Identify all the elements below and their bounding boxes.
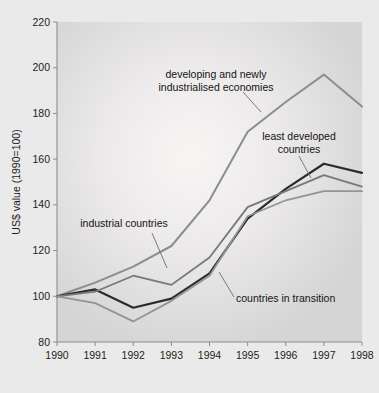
x-tick-1994: 1994 <box>198 349 222 361</box>
y-tick-220: 220 <box>32 16 50 28</box>
y-axis-title: US$ value (1990=100) <box>10 129 22 234</box>
y-tick-80: 80 <box>38 336 50 348</box>
x-tick-1991: 1991 <box>83 349 107 361</box>
y-tick-120: 120 <box>32 244 50 256</box>
x-tick-1990: 1990 <box>45 349 69 361</box>
y-tick-140: 140 <box>32 198 50 210</box>
y-tick-160: 160 <box>32 153 50 165</box>
y-tick-180: 180 <box>32 107 50 119</box>
x-tick-1993: 1993 <box>160 349 184 361</box>
x-tick-1995: 1995 <box>236 349 260 361</box>
x-tick-1992: 1992 <box>122 349 146 361</box>
chart-figure: 22020018016014012010080 1990199119921993… <box>0 0 379 393</box>
y-tick-200: 200 <box>32 61 50 73</box>
x-tick-1997: 1997 <box>312 349 336 361</box>
line-chart-svg: 22020018016014012010080 1990199119921993… <box>0 0 379 393</box>
annotation-industrial-countries: industrial countries <box>80 217 168 229</box>
annotation-developing-and-newly-industrialised-economies: developing and newlyindustrialised econo… <box>159 68 274 93</box>
annotation-countries-in-transition: countries in transition <box>236 292 335 304</box>
y-tick-100: 100 <box>32 290 50 302</box>
x-tick-1998: 1998 <box>350 349 374 361</box>
x-tick-1996: 1996 <box>274 349 298 361</box>
